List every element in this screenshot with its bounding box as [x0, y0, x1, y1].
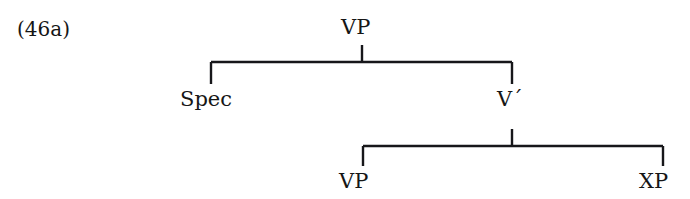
node-label-vp-root: VP [341, 17, 370, 38]
node-label-v-bar: V´ [497, 89, 523, 110]
syntax-tree-figure: (46a) VP Spec V´ VP XP [0, 0, 690, 199]
node-label-xp: XP [639, 171, 668, 192]
node-label-spec: Spec [180, 89, 232, 110]
node-label-vp-complement: VP [339, 171, 368, 192]
